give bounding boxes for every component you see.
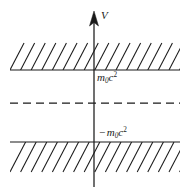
neg-rest-energy-exponent: 2 <box>123 126 127 134</box>
rest-energy-exponent: 2 <box>113 71 117 79</box>
axis-label-v-text: V <box>101 9 108 21</box>
diagram-canvas <box>0 0 190 193</box>
label-positive-rest-energy: m0c2 <box>97 72 117 85</box>
neg-rest-energy-mass-symbol: m <box>107 126 115 138</box>
label-negative-rest-energy: −m0c2 <box>99 127 127 140</box>
hatch-negative-continuum <box>10 142 190 172</box>
axis-label-v: V <box>101 10 108 21</box>
negative-sign: − <box>99 126 107 138</box>
dirac-energy-diagram: V m0c2 −m0c2 <box>0 0 190 193</box>
rest-energy-mass-symbol: m <box>97 71 105 83</box>
hatch-positive-continuum <box>10 43 190 70</box>
